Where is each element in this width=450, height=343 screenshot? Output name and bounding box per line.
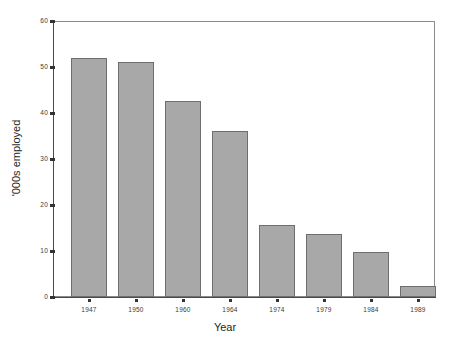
y-tick-label-0: 0 — [44, 293, 48, 300]
bar-1947 — [71, 58, 107, 297]
x-tick-label-1964: 1964 — [210, 306, 250, 313]
x-tick-label-1960: 1960 — [163, 306, 203, 313]
y-tick-label-20: 20 — [40, 201, 48, 208]
y-tick-0 — [50, 296, 55, 299]
x-tick-1960 — [182, 299, 185, 302]
y-tick-label-30: 30 — [40, 155, 48, 162]
y-tick-label-40: 40 — [40, 109, 48, 116]
y-tick-20 — [50, 204, 55, 207]
bar-1989 — [400, 286, 436, 297]
bar-1979 — [306, 234, 342, 297]
y-tick-10 — [50, 250, 55, 253]
x-tick-label-1974: 1974 — [257, 306, 297, 313]
y-tick-60 — [50, 20, 55, 23]
x-tick-1989 — [417, 299, 420, 302]
y-tick-label-10: 10 — [40, 247, 48, 254]
x-tick-1950 — [135, 299, 138, 302]
x-tick-label-1947: 1947 — [69, 306, 109, 313]
x-tick-1947 — [88, 299, 91, 302]
bar-1960 — [165, 101, 201, 297]
x-axis-title: Year — [0, 321, 450, 333]
bar-chart: 0 10 20 30 40 50 60 1947 1950 1960 1964 … — [0, 0, 450, 343]
x-tick-label-1989: 1989 — [398, 306, 438, 313]
x-tick-label-1979: 1979 — [304, 306, 344, 313]
x-tick-1974 — [276, 299, 279, 302]
y-tick-40 — [50, 112, 55, 115]
bar-1964 — [212, 131, 248, 297]
x-tick-1984 — [370, 299, 373, 302]
x-tick-1979 — [323, 299, 326, 302]
x-axis-line — [53, 297, 436, 298]
y-tick-label-60: 60 — [40, 17, 48, 24]
bar-1974 — [259, 225, 295, 297]
bar-1984 — [353, 252, 389, 297]
y-tick-label-50: 50 — [40, 63, 48, 70]
y-tick-50 — [50, 66, 55, 69]
y-tick-30 — [50, 158, 55, 161]
bar-1950 — [118, 62, 154, 297]
x-tick-1964 — [229, 299, 232, 302]
x-tick-label-1984: 1984 — [351, 306, 391, 313]
y-axis-title: '000s employed — [10, 98, 22, 218]
x-tick-label-1950: 1950 — [116, 306, 156, 313]
